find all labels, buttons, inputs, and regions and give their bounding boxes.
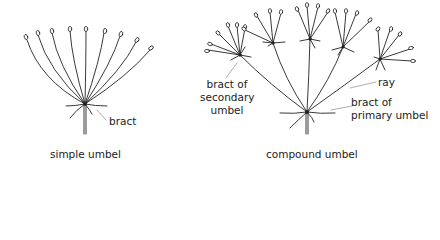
bract-of-secondary-umbel-label: bract of secondary umbel bbox=[200, 78, 254, 117]
label-line: bract of bbox=[200, 78, 254, 91]
bract-of-primary-umbel-label: bract of primary umbel bbox=[351, 96, 428, 122]
label-line: umbel bbox=[200, 104, 254, 117]
label-line: primary umbel bbox=[351, 109, 428, 122]
label-line: bract of bbox=[351, 96, 428, 109]
bract-label: bract bbox=[109, 115, 136, 128]
simple-umbel-caption: simple umbel bbox=[50, 148, 121, 160]
compound-umbel-caption: compound umbel bbox=[266, 148, 358, 160]
ray-label: ray bbox=[378, 76, 395, 89]
label-line: secondary bbox=[200, 91, 254, 104]
